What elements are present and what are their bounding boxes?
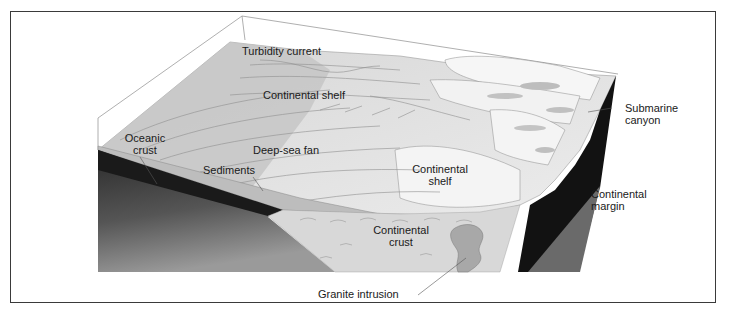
label-deep-sea-fan: Deep-sea fan	[253, 144, 319, 156]
label-continental-margin-line1: Continental	[591, 188, 647, 200]
label-submarine-canyon: Submarine canyon	[625, 102, 678, 126]
label-submarine-canyon-line1: Submarine	[625, 102, 678, 114]
label-continental-crust-line2: crust	[361, 236, 441, 248]
label-continental-margin: Continental margin	[591, 188, 647, 212]
label-continental-crust-line1: Continental	[361, 224, 441, 236]
continental-margin-diagram: Turbidity current Continental shelf Ocea…	[0, 0, 736, 314]
label-granite-intrusion: Granite intrusion	[318, 288, 399, 300]
label-continental-margin-line2: margin	[591, 200, 647, 212]
label-continental-shelf-line1: Continental	[400, 163, 480, 175]
label-continental-crust: Continental crust	[361, 224, 441, 248]
label-sediments: Sediments	[203, 164, 255, 176]
label-submarine-canyon-line2: canyon	[625, 114, 678, 126]
label-oceanic-crust: Oceanic crust	[120, 132, 170, 156]
label-turbidity-current: Turbidity current	[242, 45, 321, 57]
label-continental-shelf-top: Continental shelf	[263, 89, 345, 101]
label-oceanic-crust-line1: Oceanic	[120, 132, 170, 144]
label-oceanic-crust-line2: crust	[120, 144, 170, 156]
label-continental-shelf-line2: shelf	[400, 175, 480, 187]
block-illustration	[0, 0, 736, 314]
label-continental-shelf: Continental shelf	[400, 163, 480, 187]
